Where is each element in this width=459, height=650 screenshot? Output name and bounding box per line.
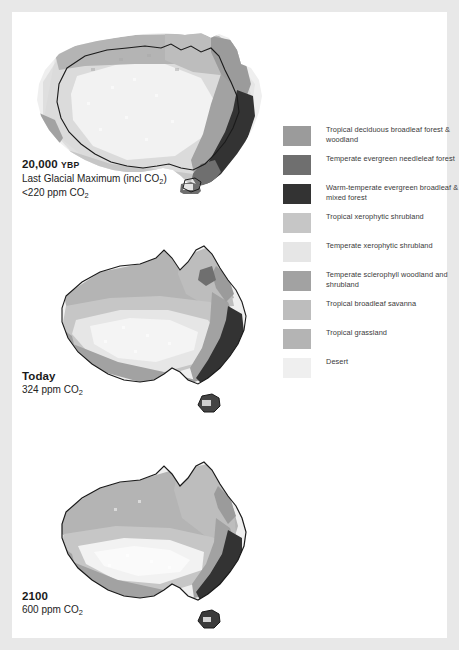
legend-label-4: Temperate xerophytic shrubland: [326, 241, 459, 251]
legend-label-0: Tropical deciduous broadleaf forest & wo…: [326, 125, 459, 144]
figure-frame: 20,000 YBP Last Glacial Maximum (incl CO…: [0, 0, 459, 650]
legend-item-0: Tropical deciduous broadleaf forest & wo…: [283, 126, 459, 155]
legend-item-4: Temperate xerophytic shrubland: [283, 242, 459, 271]
legend-label-7: Tropical grassland: [326, 328, 459, 338]
caption-lgm-title: 20,000 YBP: [22, 158, 167, 172]
legend-label-5: Temperate sclerophyll woodland and shrub…: [326, 270, 459, 289]
caption-2100: 2100 600 ppm CO2: [22, 590, 83, 617]
caption-lgm-co2: <220 ppm CO2: [22, 186, 167, 200]
legend-item-2: Warm-temperate evergreen broadleaf & mix…: [283, 184, 459, 213]
legend-swatch-3: [283, 213, 311, 233]
caption-lgm-co2-sub: 2: [85, 191, 89, 200]
legend-item-3: Tropical xerophytic shrubland: [283, 213, 459, 242]
legend-swatch-7: [283, 329, 311, 349]
legend-swatch-5: [283, 271, 311, 291]
caption-lgm-subtitle-sub: 2: [159, 177, 163, 186]
caption-2100-title: 2100: [22, 590, 83, 603]
caption-2100-co2-sub: 2: [79, 608, 83, 617]
caption-lgm-subtitle: Last Glacial Maximum (incl CO2): [22, 172, 167, 186]
caption-2100-co2-text: 600 ppm CO: [22, 604, 79, 615]
legend-item-5: Temperate sclerophyll woodland and shrub…: [283, 271, 459, 300]
legend-label-6: Tropical broadleaf savanna: [326, 299, 459, 309]
legend-label-2: Warm-temperate evergreen broadleaf & mix…: [326, 183, 459, 202]
legend: Tropical deciduous broadleaf forest & wo…: [283, 126, 459, 387]
legend-item-1: Temperate evergreen needleleaf forest: [283, 155, 459, 184]
legend-item-8: Desert: [283, 358, 459, 387]
legend-label-1: Temperate evergreen needleleaf forest: [326, 154, 459, 164]
caption-lgm-ybp: YBP: [61, 160, 79, 170]
caption-today-co2: 324 ppm CO2: [22, 383, 83, 397]
caption-today-co2-sub: 2: [79, 388, 83, 397]
caption-lgm-year: 20,000: [22, 158, 58, 170]
legend-label-3: Tropical xerophytic shrubland: [326, 212, 459, 222]
legend-swatch-4: [283, 242, 311, 262]
legend-item-7: Tropical grassland: [283, 329, 459, 358]
caption-lgm-subtitle-tail: ): [163, 173, 166, 184]
caption-lgm: 20,000 YBP Last Glacial Maximum (incl CO…: [22, 158, 167, 200]
legend-swatch-1: [283, 155, 311, 175]
caption-2100-co2: 600 ppm CO2: [22, 603, 83, 617]
legend-swatch-8: [283, 358, 311, 378]
figure-plate: 20,000 YBP Last Glacial Maximum (incl CO…: [12, 12, 447, 638]
legend-label-8: Desert: [326, 357, 459, 367]
legend-swatch-6: [283, 300, 311, 320]
caption-today: Today 324 ppm CO2: [22, 370, 83, 397]
legend-swatch-2: [283, 184, 311, 204]
caption-today-co2-text: 324 ppm CO: [22, 384, 79, 395]
caption-lgm-co2-text: <220 ppm CO: [22, 187, 85, 198]
legend-item-6: Tropical broadleaf savanna: [283, 300, 459, 329]
legend-swatch-0: [283, 126, 311, 146]
caption-today-title: Today: [22, 370, 83, 383]
caption-lgm-subtitle-text: Last Glacial Maximum (incl CO: [22, 173, 159, 184]
